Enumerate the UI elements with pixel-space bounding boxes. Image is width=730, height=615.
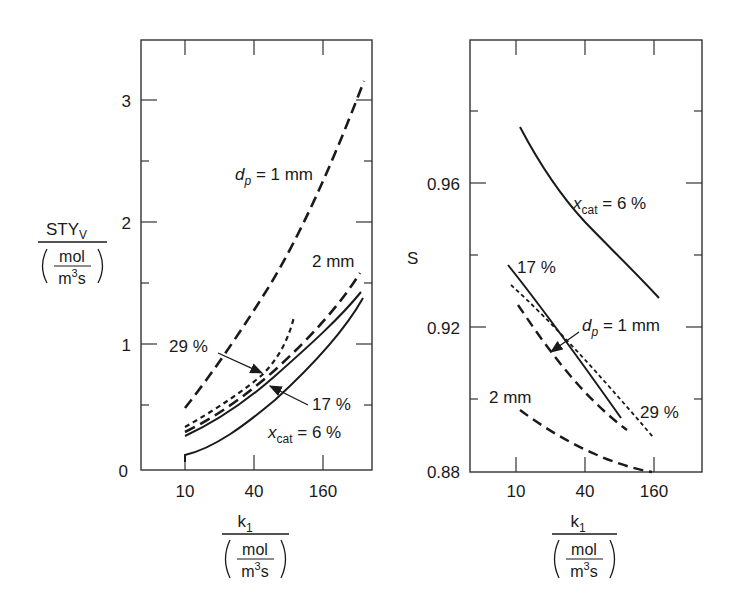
right-curve-29pct bbox=[511, 285, 653, 437]
left-ytick-2: 2 bbox=[122, 214, 131, 233]
left-xtick-10: 10 bbox=[176, 482, 195, 501]
svg-text:k1: k1 bbox=[237, 512, 253, 535]
figure: 0 1 2 3 10 40 160 STYV mol m3s k1 mol m3… bbox=[0, 0, 730, 615]
right-xtick-40: 40 bbox=[576, 482, 595, 501]
svg-text:m3s: m3s bbox=[570, 560, 597, 580]
right-label-29pct: 29 % bbox=[640, 403, 679, 422]
right-y-axis-label: S bbox=[407, 249, 418, 268]
left-arrow-17pct bbox=[270, 386, 308, 405]
right-y-ticks bbox=[470, 111, 702, 399]
right-plot: 0.88 0.92 0.96 10 40 160 S k1 mol m3s xc… bbox=[407, 40, 702, 580]
left-label-17pct: 17 % bbox=[312, 395, 351, 414]
left-y-axis-label: STYV mol m3s bbox=[38, 220, 107, 287]
left-label-2mm: 2 mm bbox=[312, 252, 355, 271]
svg-text:mol: mol bbox=[571, 541, 597, 558]
left-arrow-29pct bbox=[218, 353, 262, 373]
right-label-17pct: 17 % bbox=[517, 258, 556, 277]
right-x-ticks bbox=[516, 40, 654, 472]
right-xtick-160: 160 bbox=[640, 482, 668, 501]
left-x-axis-label: k1 mol m3s bbox=[222, 512, 289, 580]
right-label-2mm: 2 mm bbox=[489, 388, 532, 407]
left-label-29pct: 29 % bbox=[169, 337, 208, 356]
left-ytick-1: 1 bbox=[122, 336, 131, 355]
svg-text:m3s: m3s bbox=[58, 267, 85, 287]
left-ytick-3: 3 bbox=[122, 92, 131, 111]
svg-text:k1: k1 bbox=[570, 512, 586, 535]
right-xtick-10: 10 bbox=[507, 482, 526, 501]
right-x-axis-label: k1 mol m3s bbox=[552, 512, 617, 580]
right-ytick-0.88: 0.88 bbox=[427, 463, 460, 482]
svg-text:mol: mol bbox=[242, 541, 268, 558]
svg-text:STYV: STYV bbox=[46, 220, 87, 242]
left-xtick-160: 160 bbox=[309, 482, 337, 501]
right-label-6pct: xcat = 6 % bbox=[572, 194, 646, 217]
left-plot: 0 1 2 3 10 40 160 STYV mol m3s k1 mol m3… bbox=[38, 40, 372, 580]
svg-text:mol: mol bbox=[59, 248, 85, 265]
right-ytick-0.96: 0.96 bbox=[427, 175, 460, 194]
left-label-dp-1mm: dp = 1 mm bbox=[235, 165, 313, 188]
right-arrow-dp-1mm bbox=[551, 332, 579, 352]
left-label-6pct: xcat = 6 % bbox=[267, 423, 341, 446]
left-x-ticks bbox=[185, 40, 323, 470]
right-ytick-0.92: 0.92 bbox=[427, 319, 460, 338]
right-curve-2mm bbox=[520, 410, 652, 472]
left-curve-dp-1mm bbox=[185, 81, 364, 408]
left-xtick-40: 40 bbox=[245, 482, 264, 501]
svg-text:m3s: m3s bbox=[241, 560, 268, 580]
left-ytick-0: 0 bbox=[119, 462, 128, 481]
right-label-dp-1mm: dp = 1 mm bbox=[582, 316, 660, 339]
